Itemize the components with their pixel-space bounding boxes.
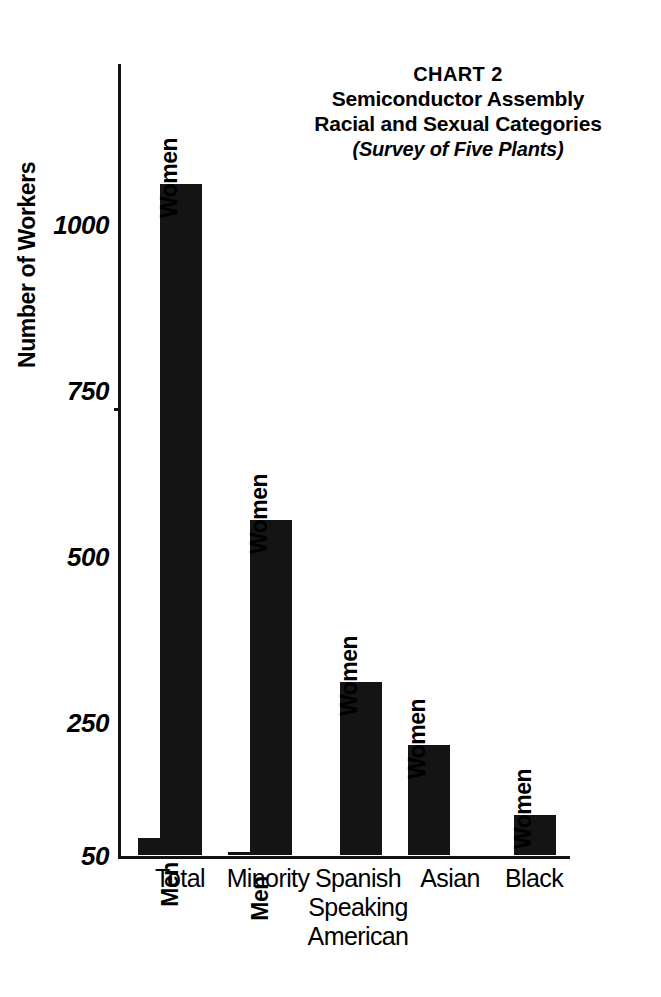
bar-men: Men [228, 852, 270, 855]
plot-area: 100075050025050 MenWomenMenWomenWomenWom… [118, 64, 570, 860]
bar-label-women: Women [512, 769, 535, 849]
x-axis-line [118, 856, 570, 859]
y-tick-label: 1000 [53, 210, 109, 241]
y-tick-label: 50 [81, 841, 109, 872]
y-tick-label: 750 [67, 376, 109, 407]
bar-label-men: Men [159, 863, 182, 908]
chart-figure: CHART 2 Semiconductor Assembly Racial an… [0, 0, 661, 997]
bar-label-men: Men [249, 876, 272, 921]
bar-label-women: Women [158, 138, 181, 218]
y-axis-line [118, 64, 121, 858]
y-axis-tick-mark [114, 408, 119, 411]
bar-women: Women [514, 815, 556, 855]
bar-women: Women [340, 682, 382, 855]
bar-label-women: Women [338, 636, 361, 716]
bar-label-women: Women [406, 699, 429, 779]
bar-women: Women [160, 184, 202, 855]
bar-label-women: Women [248, 474, 271, 554]
bar-men: Men [138, 838, 180, 855]
x-category-label: Black [470, 864, 598, 893]
y-tick-label: 500 [67, 542, 109, 573]
y-axis-title: Number of Workers [14, 162, 41, 368]
bar-women: Women [408, 745, 450, 855]
y-tick-label: 250 [67, 708, 109, 739]
bar-women: Women [250, 520, 292, 855]
